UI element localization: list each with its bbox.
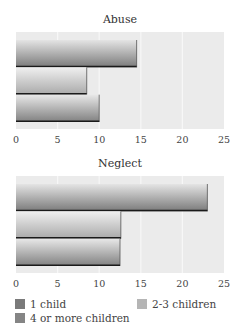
neglect-x-tick-label: 25 — [218, 278, 230, 289]
abuse-x-tick-label: 5 — [55, 134, 61, 145]
neglect-bar-1-child — [16, 184, 207, 211]
legend-item-4-or-more-children: 4 or more children — [15, 312, 130, 324]
neglect-x-tick-label: 10 — [93, 278, 105, 289]
neglect-bar-4-or-more-children — [16, 239, 120, 266]
charts-canvas: 0510152025 0510152025 — [0, 0, 240, 336]
abuse-x-tick-label: 15 — [135, 134, 147, 145]
abuse-x-tick-label: 25 — [218, 134, 230, 145]
abuse-chart: 0510152025 — [13, 32, 230, 145]
neglect-x-tick-label: 15 — [135, 278, 147, 289]
abuse-x-tick-label: 0 — [13, 134, 19, 145]
legend-item-1-child: 1 child — [15, 298, 66, 310]
legend-swatch-1-child — [15, 299, 25, 309]
legend-label-2-3-children: 2-3 children — [152, 298, 216, 310]
legend-label-1-child: 1 child — [30, 298, 66, 310]
abuse-x-tick-label: 10 — [93, 134, 105, 145]
neglect-x-tick-label: 5 — [55, 278, 61, 289]
legend-label-4-or-more-children: 4 or more children — [30, 312, 130, 324]
neglect-bar-2-3-children — [16, 211, 121, 238]
abuse-x-tick-label: 20 — [176, 134, 188, 145]
neglect-x-tick-label: 0 — [13, 278, 19, 289]
legend-swatch-4-or-more-children — [15, 313, 25, 323]
abuse-bar-1-child — [16, 40, 137, 67]
legend-swatch-2-3-children — [137, 299, 147, 309]
abuse-bar-4-or-more-children — [16, 95, 99, 122]
neglect-chart: 0510152025 — [13, 176, 230, 289]
abuse-bar-2-3-children — [16, 67, 87, 94]
legend-item-2-3-children: 2-3 children — [137, 298, 216, 310]
neglect-x-tick-label: 20 — [176, 278, 188, 289]
